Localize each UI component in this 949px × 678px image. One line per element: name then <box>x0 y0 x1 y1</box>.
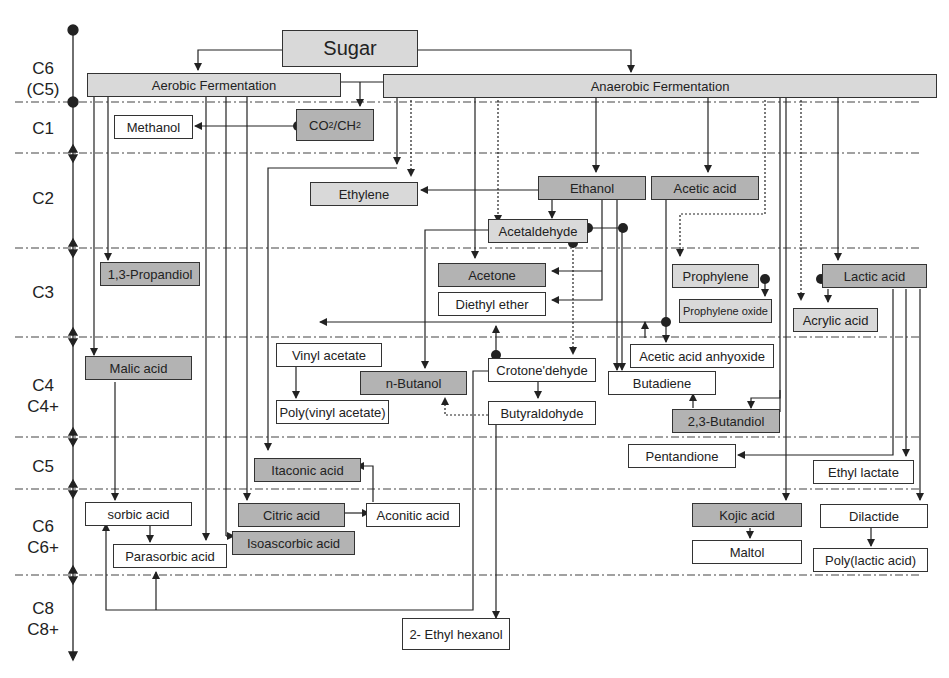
level-label-c4: C4C4+ <box>18 375 68 417</box>
level-label-c8: C8C8+ <box>18 598 68 640</box>
node-acetic-acid: Acetic acid <box>651 176 759 200</box>
level-label-c6: C6C6+ <box>18 516 68 558</box>
node-sugar: Sugar <box>282 30 418 67</box>
node-maltol: Maltol <box>692 540 802 564</box>
level-label-c1: C1 <box>18 118 68 139</box>
node-parasorbic-acid: Parasorbic acid <box>113 544 227 568</box>
node-butyraldohyde: Butyraldohyde <box>488 401 596 425</box>
node-poly-vinyl-acetate: Poly(vinyl acetate) <box>276 400 389 424</box>
node-acetaldehyde: Acetaldehyde <box>488 219 588 243</box>
node-vinyl-acetate: Vinyl acetate <box>276 343 382 367</box>
node-anaerobic-fermentation: Anaerobic Fermentation <box>383 74 937 98</box>
node-acetone: Acetone <box>438 263 546 287</box>
node-prophylene-oxide: Prophylene oxide <box>679 299 772 323</box>
connector-layer <box>0 0 949 678</box>
node-1-3-propandiol: 1,3-Propandiol <box>100 262 200 286</box>
level-label-c6-c5: C6(C5) <box>18 58 68 100</box>
node-dilactide: Dilactide <box>820 504 928 528</box>
node-poly-lactic-acid: Poly(lactic acid) <box>813 548 928 572</box>
node-diethyl-ether: Diethyl ether <box>438 292 546 316</box>
node-malic-acid: Malic acid <box>85 356 192 380</box>
node-ethanol: Ethanol <box>538 176 646 200</box>
node-ethylene: Ethylene <box>310 182 418 206</box>
node-pentandione: Pentandione <box>628 444 736 468</box>
node-citric-acid: Citric acid <box>238 503 345 527</box>
level-label-c2: C2 <box>18 188 68 209</box>
level-label-c3: C3 <box>18 282 68 303</box>
node-aerobic-fermentation: Aerobic Fermentation <box>87 73 341 97</box>
node-prophylene: Prophylene <box>672 264 759 288</box>
node-acrylic-acid: Acrylic acid <box>793 308 878 332</box>
node-sorbic-acid: sorbic acid <box>85 502 192 526</box>
node-acetic-acid-anhydride: Acetic acid anhyoxide <box>630 344 774 368</box>
node-2-ethyl-hexanol: 2- Ethyl hexanol <box>402 618 510 650</box>
node-lactic-acid: Lactic acid <box>822 264 927 288</box>
carbon-axis <box>68 25 78 660</box>
node-co2-ch2: CO2/CH2 <box>296 109 374 141</box>
node-2-3-butandiol: 2,3-Butandiol <box>672 409 780 433</box>
level-label-c5: C5 <box>18 456 68 477</box>
node-butadiene: Butadiene <box>608 371 716 395</box>
node-isoascorbic-acid: Isoascorbic acid <box>232 531 355 555</box>
node-methanol: Methanol <box>114 115 193 139</box>
node-n-butanol: n-Butanol <box>360 371 467 395</box>
node-aconitic-acid: Aconitic acid <box>366 503 460 527</box>
node-itaconic-acid: Itaconic acid <box>254 458 361 482</box>
fermentation-pathway-diagram: C6(C5) C1 C2 C3 C4C4+ C5 C6C6+ C8C8+ Sug… <box>0 0 949 678</box>
node-ethyl-lactate: Ethyl lactate <box>813 460 914 484</box>
node-kojic-acid: Kojic acid <box>692 503 802 527</box>
node-crotonedehyde: Crotone'dehyde <box>488 358 596 382</box>
